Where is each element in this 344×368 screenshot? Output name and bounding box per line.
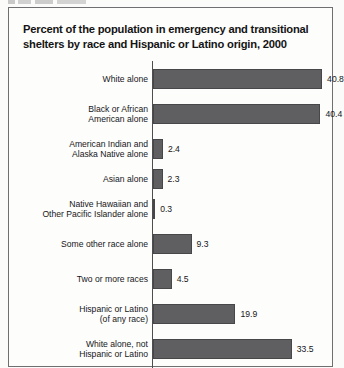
chart-frame: Percent of the population in emergency a… xyxy=(8,7,333,367)
category-label: Hispanic or Latino(of any race) xyxy=(16,304,148,325)
category-label-line: Hispanic or Latino xyxy=(79,304,148,314)
category-label-line: Hispanic or Latino xyxy=(79,349,148,359)
bar-value-label: 33.5 xyxy=(297,344,314,354)
category-label: Black or AfricanAmerican alone xyxy=(16,104,148,125)
chart-title: Percent of the population in emergency a… xyxy=(23,22,319,51)
bar-value-label: 0.3 xyxy=(160,204,172,214)
bar xyxy=(153,234,192,254)
bar-row: Two or more races4.5 xyxy=(17,269,326,289)
category-label-line: American Indian and xyxy=(69,139,148,149)
category-label-line: Black or African xyxy=(88,104,148,114)
bar-row: White alone40.8 xyxy=(17,69,326,89)
bar-value-label: 2.3 xyxy=(168,174,180,184)
bar-value-label: 40.4 xyxy=(325,109,342,119)
plot-area: White alone40.8Black or AfricanAmerican … xyxy=(17,57,326,368)
category-label: Native Hawaiian andOther Pacific Islande… xyxy=(16,199,148,220)
bar-row: Some other race alone9.3 xyxy=(17,234,326,254)
bar-row: Black or AfricanAmerican alone40.4 xyxy=(17,104,326,124)
category-label-line: Asian alone xyxy=(103,174,148,184)
bar-value-label: 2.4 xyxy=(168,144,180,154)
category-label-line: Native Hawaiian and xyxy=(69,199,148,209)
bar xyxy=(153,169,163,189)
category-label-line: American alone xyxy=(88,114,148,124)
category-label-line: Other Pacific Islander alone xyxy=(42,209,148,219)
category-label: Some other race alone xyxy=(16,239,148,249)
bar xyxy=(153,104,320,124)
chart-title-line-1: Percent of the population in emergency a… xyxy=(23,23,309,35)
bar-row: Asian alone2.3 xyxy=(17,169,326,189)
bar-row: White alone, notHispanic or Latino33.5 xyxy=(17,339,326,359)
bar xyxy=(153,304,235,324)
bar xyxy=(153,199,155,219)
cut-off-text-remnant xyxy=(8,0,86,4)
category-label-line: Some other race alone xyxy=(61,239,148,249)
category-label: Two or more races xyxy=(16,274,148,284)
chart-title-line-2: shelters by race and Hispanic or Latino … xyxy=(23,38,287,50)
bar-row: Hispanic or Latino(of any race)19.9 xyxy=(17,304,326,324)
bar-value-label: 40.8 xyxy=(327,74,344,84)
bar-row: Native Hawaiian andOther Pacific Islande… xyxy=(17,199,326,219)
bar-value-label: 4.5 xyxy=(177,274,189,284)
category-label: White alone xyxy=(16,74,148,84)
bar-value-label: 9.3 xyxy=(197,239,209,249)
bar xyxy=(153,339,292,359)
bar-row: American Indian andAlaska Native alone2.… xyxy=(17,139,326,159)
category-label-line: Two or more races xyxy=(77,274,148,284)
category-label: American Indian andAlaska Native alone xyxy=(16,139,148,160)
category-label-line: Alaska Native alone xyxy=(72,149,148,159)
category-label-line: White alone, not xyxy=(86,339,148,349)
bar xyxy=(153,269,172,289)
category-label-line: White alone xyxy=(103,74,148,84)
bar-value-label: 19.9 xyxy=(240,309,257,319)
category-label-line: (of any race) xyxy=(100,314,148,324)
category-label: White alone, notHispanic or Latino xyxy=(16,339,148,360)
bar xyxy=(153,69,322,89)
bar xyxy=(153,139,163,159)
category-label: Asian alone xyxy=(16,174,148,184)
